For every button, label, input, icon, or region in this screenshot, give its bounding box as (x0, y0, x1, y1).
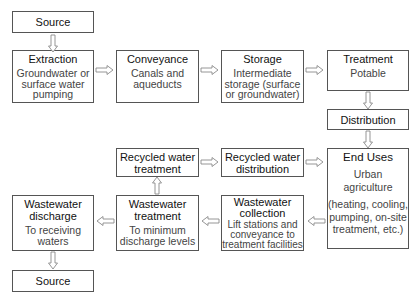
arrow-layer (0, 0, 417, 301)
arrow-down-icon (49, 35, 58, 52)
arrow-left-icon (97, 217, 114, 226)
arrow-right-icon (306, 158, 323, 167)
arrow-right-icon (306, 66, 323, 75)
arrow-down-icon (49, 252, 58, 269)
arrow-left-icon (308, 217, 325, 226)
arrow-right-icon (201, 158, 218, 167)
arrow-right-icon (201, 66, 218, 75)
arrow-right-icon (96, 66, 113, 75)
arrow-up-icon (153, 177, 162, 194)
arrow-down-icon (364, 131, 373, 148)
arrow-down-icon (364, 92, 373, 109)
arrow-left-icon (202, 217, 219, 226)
